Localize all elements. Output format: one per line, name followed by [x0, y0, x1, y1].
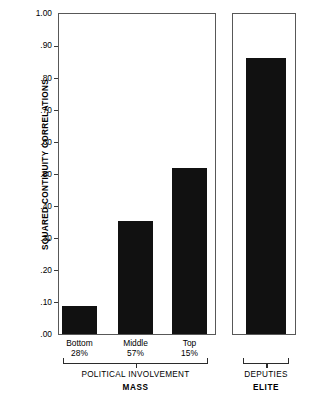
y-tick-label-p20: .20 — [22, 266, 52, 274]
category-sublabel-middle: 57% — [106, 348, 166, 359]
elite-group-label: DEPUTIES — [226, 370, 306, 379]
mass-group-label: POLITICAL INVOLVEMENT — [43, 370, 228, 379]
mass-group-label-bold: MASS — [43, 383, 228, 392]
y-tick-label-p30: .30 — [22, 234, 52, 242]
category-label-group-bottom: Bottom28% — [50, 338, 110, 359]
category-label-bottom: Bottom — [50, 338, 110, 349]
elite-group-label-bold: ELITE — [226, 383, 306, 392]
y-tick-label-1p00: 1.00 — [22, 9, 52, 17]
elite-bracket-tick — [266, 364, 267, 368]
y-tick-label-p80: .80 — [22, 74, 52, 82]
category-label-top: Top — [160, 338, 220, 349]
category-label-middle: Middle — [106, 338, 166, 349]
category-label-group-top: Top15% — [160, 338, 220, 359]
y-tick-label-p50: .50 — [22, 170, 52, 178]
bar-bottom — [62, 306, 97, 335]
y-tick-label-p90: .90 — [22, 41, 52, 49]
y-tick-label-p10: .10 — [22, 298, 52, 306]
chart-figure: SQUARED CONTINUITY CORRELATIONS 1.00.90.… — [0, 0, 318, 402]
elite-bracket — [243, 358, 289, 364]
mass-bracket — [63, 358, 208, 364]
y-tick-label-p40: .40 — [22, 202, 52, 210]
bar-top — [172, 168, 207, 335]
bar-deputies — [246, 58, 286, 334]
y-tick-label-p60: .60 — [22, 138, 52, 146]
bar-middle — [118, 221, 153, 335]
category-sublabel-top: 15% — [160, 348, 220, 359]
y-tick-label-p70: .70 — [22, 106, 52, 114]
y-axis-tick-labels: 1.00.90.80.70.60.50.40.30.20.10.00 — [22, 0, 52, 402]
category-sublabel-bottom: 28% — [50, 348, 110, 359]
y-tick-label-p00: .00 — [22, 330, 52, 338]
mass-bracket-tick — [136, 364, 137, 368]
category-label-group-middle: Middle57% — [106, 338, 166, 359]
